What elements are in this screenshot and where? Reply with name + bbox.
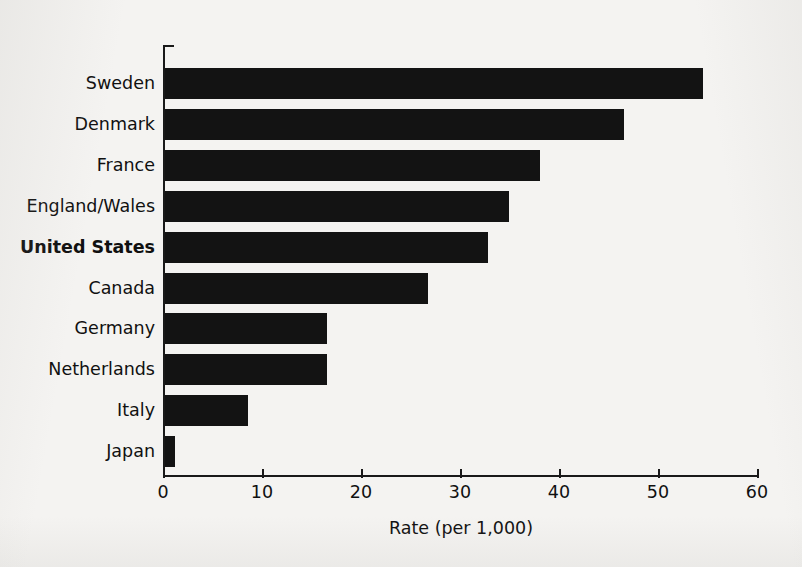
bar-row bbox=[165, 436, 175, 467]
bar bbox=[165, 68, 703, 99]
bar-series bbox=[165, 45, 759, 475]
category-label: United States bbox=[0, 232, 155, 263]
category-label: Canada bbox=[0, 273, 155, 304]
category-label: Germany bbox=[0, 313, 155, 344]
x-axis-ticks: 0102030405060 bbox=[163, 477, 759, 517]
category-label: Netherlands bbox=[0, 354, 155, 385]
bar-row bbox=[165, 68, 703, 99]
category-label: Denmark bbox=[0, 109, 155, 140]
x-tick-mark bbox=[658, 469, 660, 478]
category-label: Sweden bbox=[0, 68, 155, 99]
bar-row bbox=[165, 150, 540, 181]
x-tick-mark bbox=[757, 469, 759, 478]
bar bbox=[165, 395, 248, 426]
x-axis-title: Rate (per 1,000) bbox=[163, 518, 759, 538]
category-label: Japan bbox=[0, 436, 155, 467]
x-tick-label: 20 bbox=[350, 482, 372, 502]
x-tick-mark bbox=[559, 469, 561, 478]
category-axis-labels: SwedenDenmarkFranceEngland/WalesUnited S… bbox=[0, 45, 155, 475]
bar-row bbox=[165, 273, 428, 304]
x-tick-label: 0 bbox=[157, 482, 168, 502]
bar bbox=[165, 436, 175, 467]
bar-row bbox=[165, 232, 488, 263]
bar-row bbox=[165, 109, 624, 140]
bar bbox=[165, 150, 540, 181]
bar bbox=[165, 191, 509, 222]
bar bbox=[165, 232, 488, 263]
x-tick-mark bbox=[361, 469, 363, 478]
category-label: France bbox=[0, 150, 155, 181]
bar-row bbox=[165, 313, 327, 344]
x-tick-mark bbox=[262, 469, 264, 478]
x-tick-label: 10 bbox=[251, 482, 273, 502]
bar-row bbox=[165, 354, 327, 385]
x-tick-mark bbox=[460, 469, 462, 478]
x-tick-mark bbox=[163, 469, 165, 478]
category-label: England/Wales bbox=[0, 191, 155, 222]
bar bbox=[165, 313, 327, 344]
x-tick-label: 40 bbox=[548, 482, 570, 502]
x-tick-label: 30 bbox=[449, 482, 471, 502]
bar bbox=[165, 273, 428, 304]
bar-row bbox=[165, 395, 248, 426]
bar-row bbox=[165, 191, 509, 222]
bar bbox=[165, 354, 327, 385]
bar-chart-figure: SwedenDenmarkFranceEngland/WalesUnited S… bbox=[0, 0, 802, 567]
category-label: Italy bbox=[0, 395, 155, 426]
x-tick-label: 60 bbox=[746, 482, 768, 502]
bar bbox=[165, 109, 624, 140]
x-tick-label: 50 bbox=[647, 482, 669, 502]
